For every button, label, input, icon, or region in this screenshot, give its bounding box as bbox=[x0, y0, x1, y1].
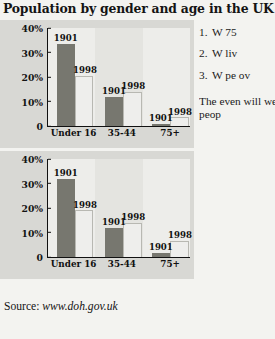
bar-males-3544-1901 bbox=[105, 97, 123, 126]
x-tick-label: Under 16 bbox=[51, 259, 97, 269]
y-tick-label: 0 bbox=[37, 121, 48, 132]
list-item: 1. W 75 bbox=[199, 26, 275, 38]
bar-females-3544-1901 bbox=[105, 228, 123, 257]
bar-value-label: 1901 bbox=[54, 168, 78, 178]
bar-males-3544-1998 bbox=[123, 92, 141, 126]
y-tick-label: 30% bbox=[21, 47, 48, 58]
list-item-text: W pe ov bbox=[212, 69, 250, 81]
plot-area-males: 40% 30% 20% 10% 0 1901 1998 1901 1998 19… bbox=[47, 28, 190, 127]
bar-females-75plus-1901 bbox=[152, 253, 170, 257]
figure-title: Population by gender and age in the UK bbox=[3, 1, 275, 16]
bar-females-under16-1998 bbox=[75, 210, 93, 257]
bar-value-label: 1998 bbox=[121, 212, 145, 222]
plot-area-females: 40% 30% 20% 10% 0 1901 1998 1901 1998 19… bbox=[47, 159, 190, 258]
bar-value-label: 1998 bbox=[168, 107, 192, 117]
bar-value-label: 1998 bbox=[73, 65, 97, 75]
questions-list: 1. W 75 2. W liv 3. W pe ov bbox=[199, 26, 275, 81]
list-item-text: W liv bbox=[212, 47, 237, 59]
bar-value-label: 1998 bbox=[121, 81, 145, 91]
bar-males-under16-1901 bbox=[57, 44, 75, 126]
x-tick-label: Under 16 bbox=[51, 128, 97, 138]
chart-panel-females: Females 40% 30% 20% 10% 0 1901 1998 1901… bbox=[0, 151, 194, 279]
y-tick-label: 40% bbox=[21, 154, 48, 165]
figure-page: Population by gender and age in the UK M… bbox=[0, 0, 275, 339]
x-tick-label: 35-44 bbox=[108, 128, 136, 138]
bar-males-under16-1998 bbox=[75, 76, 93, 126]
charts-column: Males 40% 30% 20% 10% 0 1901 1998 1901 1… bbox=[0, 20, 196, 282]
bar-value-label: 1998 bbox=[73, 200, 97, 210]
y-tick-label: 30% bbox=[21, 178, 48, 189]
y-tick-label: 0 bbox=[37, 252, 48, 263]
source-prefix: Source: bbox=[4, 300, 42, 313]
list-item-number: 2. bbox=[199, 47, 207, 59]
list-item-number: 1. bbox=[199, 26, 207, 38]
source-line: Source: www.doh.gov.uk bbox=[4, 300, 118, 313]
list-item: 2. W liv bbox=[199, 47, 275, 59]
bar-value-label: 1901 bbox=[149, 242, 173, 252]
body-paragraph: The even will were more is th peop bbox=[199, 95, 275, 120]
y-tick-label: 20% bbox=[21, 72, 48, 83]
bar-value-label: 1901 bbox=[54, 33, 78, 43]
y-tick-label: 10% bbox=[21, 227, 48, 238]
source-url: www.doh.gov.uk bbox=[42, 300, 117, 313]
questions-column: 1. W 75 2. W liv 3. W pe ov The even wil… bbox=[199, 26, 275, 339]
y-tick-label: 20% bbox=[21, 203, 48, 214]
list-item-number: 3. bbox=[199, 69, 207, 81]
x-tick-label: 75+ bbox=[160, 259, 180, 269]
y-tick-label: 40% bbox=[21, 23, 48, 34]
chart-panel-males: Males 40% 30% 20% 10% 0 1901 1998 1901 1… bbox=[0, 20, 194, 148]
x-tick-label: 35-44 bbox=[108, 259, 136, 269]
list-item-text: W 75 bbox=[212, 26, 237, 38]
y-tick-label: 10% bbox=[21, 96, 48, 107]
list-item: 3. W pe ov bbox=[199, 69, 275, 81]
x-tick-label: 75+ bbox=[160, 128, 180, 138]
bar-females-under16-1901 bbox=[57, 179, 75, 257]
bar-value-label: 1998 bbox=[168, 230, 192, 240]
bar-males-75plus-1901 bbox=[152, 124, 170, 126]
bar-females-3544-1998 bbox=[123, 223, 141, 257]
